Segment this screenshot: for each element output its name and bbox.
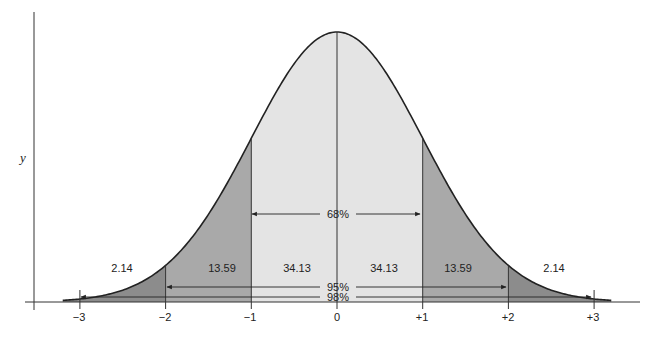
interval-98-label: 98% (327, 291, 349, 303)
x-tick-label: 0 (334, 311, 340, 323)
region-label: 34.13 (283, 262, 311, 274)
normal-distribution-chart: y 68% 95% 98% 2.14 13.59 34.13 34.13 13.… (0, 0, 652, 338)
x-tick-label: −3 (73, 311, 86, 323)
y-axis-label: y (18, 150, 26, 165)
region-label: 13.59 (208, 262, 236, 274)
region-label: 2.14 (543, 262, 564, 274)
x-tick-label: +1 (416, 311, 429, 323)
sigma-lines (80, 32, 594, 309)
x-tick-label: −1 (244, 311, 257, 323)
interval-68-label: 68% (327, 208, 349, 220)
x-tick-label: −2 (159, 311, 172, 323)
x-tick-label: +2 (502, 311, 515, 323)
region-label: 2.14 (111, 262, 132, 274)
x-tick-label: +3 (587, 311, 600, 323)
region-label: 34.13 (370, 262, 398, 274)
region-label: 13.59 (444, 262, 472, 274)
